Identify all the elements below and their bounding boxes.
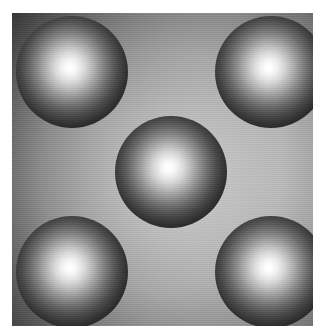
sphere-bottom-right (215, 216, 313, 326)
render-canvas (12, 13, 313, 326)
sphere-center (115, 116, 227, 228)
sphere-bottom-left (16, 216, 128, 326)
page-root (0, 0, 325, 336)
sphere-top-left (16, 16, 128, 128)
